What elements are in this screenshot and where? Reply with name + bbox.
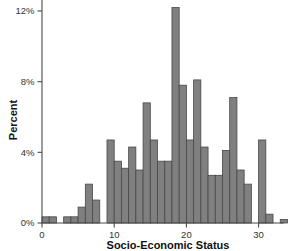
histogram-bar [158,161,165,223]
histogram-bar [223,151,230,223]
histogram-bar [208,175,215,223]
x-axis-title: Socio-Economic Status [107,239,230,251]
histogram-bar [49,217,56,223]
histogram-bar [42,217,49,223]
histogram-bar [165,161,172,223]
histogram-bar [172,7,179,223]
histogram-bar [64,217,71,223]
histogram-bar [179,85,186,223]
histogram-bar [93,200,100,223]
histogram-bar [114,161,121,223]
bars-group [42,7,287,223]
y-tick-label: 8% [21,76,35,87]
histogram-bar [143,103,150,223]
histogram-bar [85,184,92,223]
histogram-svg: 0%4%8%12% 0102030 Percent Socio-Economic… [0,0,297,251]
y-tick-label: 0% [21,217,35,228]
histogram-bar [244,184,251,223]
histogram-bar [107,140,114,223]
y-tick-label: 12% [15,5,35,16]
histogram-bar [150,140,157,223]
histogram-bar [237,170,244,223]
x-tick-label: 30 [253,229,264,240]
histogram-bar [71,217,78,223]
histogram-bar [136,170,143,223]
histogram-bar [129,147,136,223]
histogram-bar [121,168,128,223]
histogram-bar [215,175,222,223]
histogram-bar [201,147,208,223]
y-axis-title: Percent [7,99,19,140]
histogram-bar [78,207,85,223]
histogram-bar [266,214,273,223]
histogram-bar [194,80,201,223]
histogram-figure: 0%4%8%12% 0102030 Percent Socio-Economic… [0,0,297,251]
histogram-bar [230,98,237,223]
histogram-bar [186,140,193,223]
x-tick-label: 0 [39,229,44,240]
histogram-bar [259,140,266,223]
y-tick-label: 4% [21,147,35,158]
